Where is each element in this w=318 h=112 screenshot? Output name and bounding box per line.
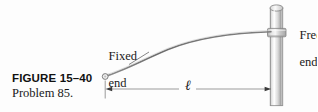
label-free-end-line1: Free — [300, 28, 318, 42]
vertical-post — [270, 5, 283, 106]
figure-15-40: Fixed end Free end ℓ FIGURE 15–40 Proble… — [0, 0, 317, 112]
label-free-end-line2: end — [300, 55, 318, 69]
length-symbol-label: ℓ — [181, 78, 195, 94]
label-fixed-end-line2: end — [109, 76, 127, 90]
caption-figure-number: FIGURE 15–40 — [12, 72, 108, 84]
attachment-collar — [268, 28, 287, 36]
label-free-end: Free end — [287, 15, 317, 83]
caption-problem-reference: Problem 85. — [12, 86, 108, 101]
figure-caption: FIGURE 15–40 Problem 85. — [12, 72, 108, 101]
label-fixed-end-line1: Fixed — [109, 49, 137, 63]
